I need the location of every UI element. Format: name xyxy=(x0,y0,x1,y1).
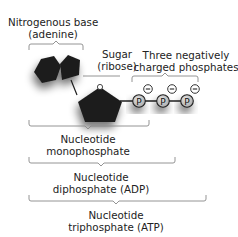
label-nmp-line1: Nucleotide xyxy=(38,133,138,145)
label-atp-line1: Nucleotide xyxy=(60,209,172,221)
adenine-hexagon xyxy=(34,56,61,83)
label-nucleotide-diphosphate: Nucleotide diphosphate (ADP) xyxy=(46,171,156,195)
bracket-phosphates xyxy=(132,73,198,82)
ribose-pentagon xyxy=(78,87,122,122)
label-nucleotide-triphosphate: Nucleotide triphosphate (ATP) xyxy=(60,209,172,233)
ribose-molecule xyxy=(78,87,122,122)
label-nmp-line2: monophosphate xyxy=(38,145,138,157)
bracket-adp xyxy=(29,157,175,166)
bracket-atp xyxy=(29,195,206,204)
label-adp-line1: Nucleotide xyxy=(46,171,156,183)
label-phosphates: Three negatively charged phosphates xyxy=(130,49,238,73)
label-adp-line2: diphosphate (ADP) xyxy=(46,183,156,195)
phosphate-3-label: P xyxy=(184,97,190,107)
label-phosphates-line1: Three negatively xyxy=(130,49,238,61)
label-nucleotide-monophosphate: Nucleotide monophosphate xyxy=(38,133,138,157)
label-atp-line2: triphosphate (ATP) xyxy=(60,221,172,233)
label-base-line1: Nitrogenous base xyxy=(8,16,98,28)
adenine-pentagon xyxy=(60,55,80,80)
adenine-molecule xyxy=(34,55,80,83)
label-nitrogenous-base: Nitrogenous base (adenine) xyxy=(8,16,98,40)
bracket-base xyxy=(29,41,83,50)
phosphate-2-label: P xyxy=(160,97,166,107)
label-phosphates-line2: charged phosphates xyxy=(130,61,238,73)
label-base-line2: (adenine) xyxy=(8,28,98,40)
ring-oxygen xyxy=(97,84,102,89)
phosphate-1-label: P xyxy=(136,97,142,107)
